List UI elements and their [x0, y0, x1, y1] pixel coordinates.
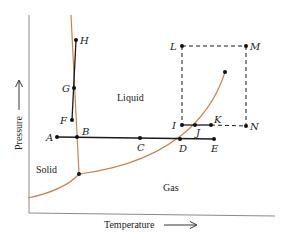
label-k: K: [213, 114, 222, 125]
label-j: J: [194, 127, 201, 138]
point-m: [244, 44, 248, 48]
point-g: [72, 86, 76, 90]
label-n: N: [249, 121, 260, 132]
y-axis-label: Pressure: [13, 116, 24, 150]
region-liquid: Liquid: [117, 92, 144, 103]
point-n: [244, 124, 248, 128]
point-b: [75, 135, 79, 139]
sublimation-curve: [28, 174, 79, 198]
label-l: L: [169, 41, 177, 52]
triple-point: [77, 172, 81, 176]
label-i: I: [171, 120, 177, 131]
point-d: [178, 137, 182, 141]
dashed-k-n: [211, 125, 246, 126]
x-axis-label: Temperature: [104, 219, 155, 230]
point-a: [55, 135, 59, 139]
point-c: [138, 136, 142, 140]
phase-diagram: H G F A B C D E L M N I J K Liquid Solid…: [0, 0, 282, 241]
label-e: E: [210, 143, 219, 154]
label-c: C: [137, 142, 145, 153]
y-axis-label-group: Pressure: [13, 80, 24, 150]
point-h: [74, 38, 78, 42]
point-k: [209, 123, 213, 127]
point-f: [70, 118, 74, 122]
line-a-e: [57, 137, 214, 139]
x-axis-label-group: Temperature: [104, 219, 197, 230]
point-e: [212, 137, 216, 141]
point-i: [180, 123, 184, 127]
region-solid: Solid: [36, 164, 57, 175]
label-g: G: [62, 83, 70, 94]
x-axis: [29, 213, 275, 216]
region-gas: Gas: [163, 182, 179, 193]
point-l: [180, 44, 184, 48]
points: [55, 38, 248, 176]
label-d: D: [178, 143, 187, 154]
label-b: B: [81, 126, 89, 137]
vaporization-curve: [79, 72, 225, 174]
label-m: M: [249, 41, 261, 52]
critical-point: [223, 70, 227, 74]
label-f: F: [59, 115, 68, 126]
label-h: H: [79, 35, 89, 46]
label-a: A: [45, 132, 53, 143]
